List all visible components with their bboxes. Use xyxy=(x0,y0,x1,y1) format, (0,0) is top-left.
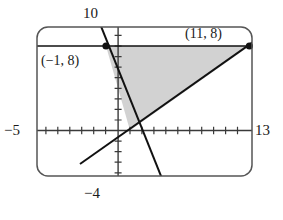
point-label-right-vertex: (11, 8) xyxy=(185,27,222,41)
coordinate-plane-svg xyxy=(0,0,283,220)
graph-figure: 10 −5 13 −4 (−1, 8) (11, 8) xyxy=(0,0,283,220)
y-max-label: 10 xyxy=(83,6,98,21)
y-min-label: −4 xyxy=(84,186,100,201)
point-marker-left-vertex xyxy=(102,42,109,49)
point-label-left-vertex: (−1, 8) xyxy=(41,54,79,68)
x-min-label: −5 xyxy=(4,123,20,138)
x-max-label: 13 xyxy=(255,123,270,138)
